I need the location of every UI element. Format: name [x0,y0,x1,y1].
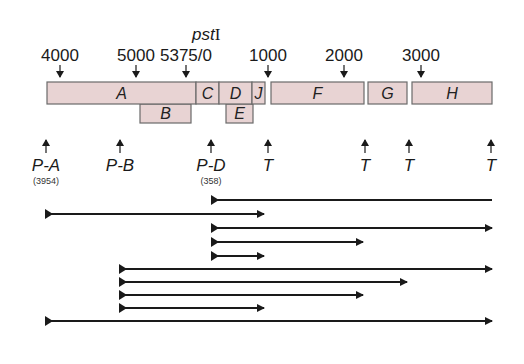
transcript-arrow [211,237,363,247]
gene-c-label: C [202,85,214,102]
transcript-arrow [45,316,492,326]
transcript-arrow [119,290,363,300]
coordinate-label: 2000 [325,46,363,65]
promoter-terminator-sites: P-A(3954)P-BP-D(358)TTTT [32,140,498,186]
diagram-canvas: pstI 400050005375/0100020003000 BEACDJFG… [0,0,524,364]
transcript-arrow [119,303,264,313]
transcript-arrow [119,264,492,274]
transcript-arrow [211,251,264,261]
terminator-label: T [486,156,498,175]
promoter-label: P-D [196,156,225,175]
terminator-label: T [404,156,416,175]
gene-h-label: H [446,85,458,102]
promoter-label: P-B [106,156,134,175]
coordinate-label: 4000 [41,46,79,65]
gene-d-label: D [230,85,242,102]
coordinate-label: 3000 [402,46,440,65]
promoter-position: (3954) [33,176,59,186]
enzyme-label: pstI [191,25,221,44]
transcripts [45,195,492,326]
transcript-arrow [119,277,407,287]
coordinate-label: 5000 [117,46,155,65]
gene-j-label: J [254,85,264,102]
gene-b-label: B [160,105,171,122]
gene-g-label: G [381,85,393,102]
promoter-position: (358) [200,176,221,186]
transcript-arrow [211,195,492,205]
transcript-arrow [211,223,492,233]
gene-a-label: A [115,85,127,102]
transcript-arrow [45,209,264,219]
gene-e-label: E [234,105,245,122]
coordinate-label: 1000 [249,46,287,65]
gene-map: BEACDJFGH [47,82,492,123]
promoter-label: P-A [32,156,60,175]
terminator-label: T [360,156,372,175]
coordinate-ticks: 400050005375/0100020003000 [41,46,440,77]
gene-f-label: F [313,85,324,102]
terminator-label: T [263,156,275,175]
coordinate-label: 5375/0 [160,46,212,65]
